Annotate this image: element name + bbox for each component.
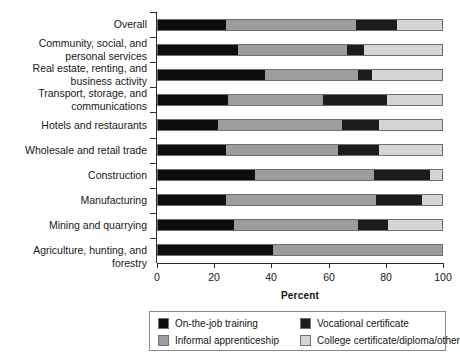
- stacked-bar: [157, 244, 443, 256]
- y-axis-tick: [150, 12, 157, 13]
- bar-segment: [265, 70, 357, 80]
- y-axis-label: Transport, storage, and communications: [38, 87, 147, 112]
- bar-row: [157, 169, 443, 181]
- x-axis-tick-label: 80: [380, 271, 392, 283]
- bar-row: [157, 119, 443, 131]
- y-axis-tick: [150, 87, 157, 88]
- bar-segment: [238, 45, 346, 55]
- bar-segment: [158, 195, 226, 205]
- y-axis-label: Agriculture, hunting, and forestry: [0, 244, 147, 269]
- legend-item-label: Informal apprenticeship: [175, 335, 279, 346]
- bar-segment: [356, 20, 398, 30]
- bar-segment: [347, 45, 365, 55]
- bar-segment: [226, 195, 376, 205]
- legend-swatch-icon: [300, 335, 311, 346]
- bar-segment: [397, 20, 442, 30]
- x-axis-tick: [443, 263, 444, 268]
- legend-item-label: On-the-job training: [175, 318, 258, 329]
- y-axis-label: Overall: [114, 18, 147, 31]
- bar-segment: [158, 145, 226, 155]
- bar-segment: [273, 245, 442, 255]
- x-axis-tick: [157, 263, 158, 268]
- bar-segment: [255, 170, 374, 180]
- bar-segment: [364, 45, 442, 55]
- x-axis-tick: [214, 263, 215, 268]
- bar-segment: [372, 70, 442, 80]
- bar-segment: [338, 145, 380, 155]
- bar-segment: [358, 220, 388, 230]
- stacked-bar: [157, 219, 443, 231]
- y-axis-label: Construction: [88, 169, 147, 182]
- bar-row: [157, 19, 443, 31]
- bar-segment: [422, 195, 442, 205]
- bar-segment: [158, 45, 238, 55]
- legend-swatch-icon: [300, 318, 311, 329]
- legend-swatch-icon: [158, 335, 169, 346]
- stacked-bar: [157, 119, 443, 131]
- bar-segment: [323, 95, 387, 105]
- bar-segment: [374, 170, 431, 180]
- legend-item-informal-apprenticeship[interactable]: Informal apprenticeship: [158, 335, 300, 346]
- bar-segment: [158, 170, 255, 180]
- y-axis-tick: [150, 238, 157, 239]
- bar-segment: [158, 120, 218, 130]
- bar-segment: [234, 220, 358, 230]
- bar-row: [157, 144, 443, 156]
- y-axis-tick: [150, 188, 157, 189]
- y-axis-label: Mining and quarrying: [49, 219, 147, 232]
- bar-row: [157, 44, 443, 56]
- x-axis-line: [157, 263, 444, 264]
- bar-segment: [158, 70, 265, 80]
- stacked-bar: [157, 144, 443, 156]
- x-axis-tick: [386, 263, 387, 268]
- bar-segment: [388, 220, 442, 230]
- y-axis-tick: [150, 112, 157, 113]
- bar-row: [157, 69, 443, 81]
- bar-segment: [158, 20, 226, 30]
- y-axis-tick: [150, 138, 157, 139]
- bar-segment: [158, 245, 273, 255]
- y-axis-label: Manufacturing: [80, 194, 147, 207]
- bar-row: [157, 94, 443, 106]
- y-axis-tick: [150, 163, 157, 164]
- bar-segment: [379, 120, 441, 130]
- stacked-bar: [157, 44, 443, 56]
- legend-item-label: College certificate/diploma/other: [317, 335, 460, 346]
- legend-item-college-certificate[interactable]: College certificate/diploma/other: [300, 335, 460, 346]
- bar-segment: [379, 145, 441, 155]
- legend: On-the-job training Vocational certifica…: [149, 311, 446, 351]
- bar-segment: [430, 170, 442, 180]
- bar-segment: [158, 95, 228, 105]
- bar-row: [157, 219, 443, 231]
- y-axis-label: Community, social, and personal services: [39, 37, 147, 62]
- x-axis-tick-label: 40: [265, 271, 277, 283]
- bar-segment: [218, 120, 342, 130]
- x-axis-tick: [271, 263, 272, 268]
- y-axis-tick: [150, 62, 157, 63]
- y-axis-label: Wholesale and retail trade: [25, 144, 147, 157]
- bar-segment: [158, 220, 234, 230]
- stacked-bar: [157, 169, 443, 181]
- bar-segment: [387, 95, 442, 105]
- bar-row: [157, 244, 443, 256]
- bar-segment: [226, 20, 355, 30]
- y-axis-label: Hotels and restaurants: [41, 119, 147, 132]
- x-axis-tick-label: 100: [434, 271, 452, 283]
- y-axis-tick: [150, 37, 157, 38]
- bar-segment: [226, 145, 337, 155]
- bar-segment: [228, 95, 323, 105]
- x-axis-title: Percent: [157, 290, 443, 301]
- stacked-bar: [157, 94, 443, 106]
- stacked-bar: [157, 194, 443, 206]
- x-axis-tick: [329, 263, 330, 268]
- stacked-bar: [157, 69, 443, 81]
- legend-swatch-icon: [158, 318, 169, 329]
- bar-row: [157, 194, 443, 206]
- stacked-bar: [157, 19, 443, 31]
- bar-segment: [376, 195, 422, 205]
- legend-item-vocational-certificate[interactable]: Vocational certificate: [300, 318, 460, 329]
- bar-segment: [342, 120, 380, 130]
- x-axis-tick-label: 60: [323, 271, 335, 283]
- legend-item-on-the-job-training[interactable]: On-the-job training: [158, 318, 300, 329]
